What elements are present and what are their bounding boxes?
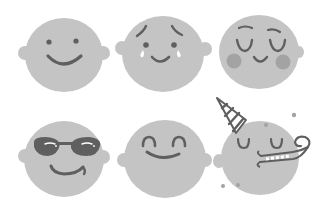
face-sunglasses — [18, 121, 110, 197]
emoji-grid: Emoji faces set Smiling face Tearful smi… — [0, 0, 329, 207]
face-smile — [18, 18, 110, 92]
face-grin — [117, 120, 212, 198]
sunglasses-lens-right — [71, 137, 100, 156]
emoji-illustration — [0, 0, 329, 207]
face-blush — [219, 15, 304, 89]
eye-icon — [171, 42, 177, 48]
eye-icon — [46, 39, 51, 44]
sunglasses-bridge — [58, 142, 73, 145]
eye-icon — [73, 38, 78, 43]
cheek-icon — [276, 55, 291, 70]
eye-icon — [143, 42, 149, 48]
cheek-icon — [227, 54, 242, 69]
face-party — [213, 98, 309, 195]
face-tearful — [115, 16, 212, 92]
